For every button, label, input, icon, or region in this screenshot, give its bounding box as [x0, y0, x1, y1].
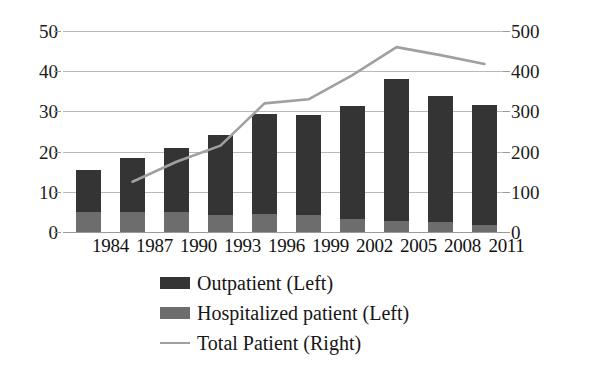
y2-tickmark-100: [503, 192, 510, 193]
legend-item-outpatient[interactable]: Outpatient (Left): [160, 268, 490, 298]
legend-item-hospitalized[interactable]: Hospitalized patient (Left): [160, 298, 490, 328]
x-axis-label-1993: 1993: [221, 236, 265, 257]
plot-area: [63, 31, 503, 232]
y2-tickmark-300: [503, 111, 510, 112]
y-tickmark-0: [54, 232, 61, 233]
y2-tickmark-0: [503, 232, 510, 233]
legend-label-hospitalized: Hospitalized patient (Left): [197, 303, 409, 323]
legend-swatch-line-icon: [160, 337, 190, 349]
y2-axis-label-300: 300: [511, 102, 540, 121]
legend-item-total-patient[interactable]: Total Patient (Right): [160, 328, 490, 358]
chart-container: 50 40 30 20 10 0 500 400 300 200 100 0 1…: [0, 0, 607, 380]
y2-axis-label-500: 500: [511, 22, 540, 41]
y2-tickmark-400: [503, 71, 510, 72]
x-axis-label-1999: 1999: [309, 236, 353, 257]
x-axis-label-1984: 1984: [89, 236, 133, 257]
y-tickmark-10: [54, 192, 61, 193]
legend-label-total-patient: Total Patient (Right): [197, 333, 361, 353]
y-tickmark-40: [54, 71, 61, 72]
x-axis-label-1996: 1996: [265, 236, 309, 257]
y2-axis-label-200: 200: [511, 143, 540, 162]
total-patient-line: [63, 31, 503, 232]
y2-axis-label-100: 100: [511, 183, 540, 202]
x-axis-label-2005: 2005: [397, 236, 441, 257]
total-patient-polyline: [133, 47, 485, 182]
gridline-baseline: [63, 232, 503, 233]
x-axis-labels: 1984 1987 1990 1993 1996 1999 2002 2005 …: [63, 236, 503, 262]
y-tickmark-50: [54, 31, 61, 32]
y-tickmark-30: [54, 111, 61, 112]
x-axis-label-1987: 1987: [133, 236, 177, 257]
legend-swatch-hospitalized-icon: [160, 307, 190, 319]
y2-tickmark-200: [503, 152, 510, 153]
chart-legend: Outpatient (Left) Hospitalized patient (…: [160, 268, 490, 358]
legend-label-outpatient: Outpatient (Left): [197, 273, 333, 293]
x-axis-label-1990: 1990: [177, 236, 221, 257]
y2-axis-label-400: 400: [511, 62, 540, 81]
y-tickmark-20: [54, 152, 61, 153]
y2-tickmark-500: [503, 31, 510, 32]
x-axis-label-2008: 2008: [441, 236, 485, 257]
x-axis-label-2011: 2011: [485, 236, 529, 257]
x-axis-label-2002: 2002: [353, 236, 397, 257]
legend-swatch-outpatient-icon: [160, 277, 190, 289]
